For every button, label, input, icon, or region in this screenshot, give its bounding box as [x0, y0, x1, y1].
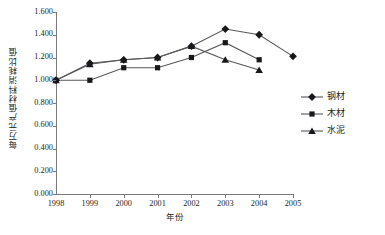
legend-marker-square-icon: [300, 108, 324, 120]
y-axis-tick-mark: [53, 12, 56, 13]
data-point-木材-2003: [223, 40, 228, 45]
legend-label: 水泥: [327, 126, 345, 135]
data-point-钢材-2004: [255, 31, 263, 39]
x-axis-tick-mark: [259, 195, 260, 198]
legend-marker-triangle-icon: [300, 125, 324, 137]
legend-item-木材[interactable]: 木材: [300, 105, 382, 122]
series-line-木材: [56, 43, 259, 81]
y-axis-tick-mark: [53, 149, 56, 150]
data-point-木材-2001: [155, 65, 160, 70]
x-axis-tick-mark: [225, 195, 226, 198]
legend-label: 钢材: [327, 92, 345, 101]
y-axis-tick-mark: [53, 194, 56, 195]
legend-marker-diamond-icon: [300, 91, 324, 103]
data-point-木材-1999: [87, 78, 92, 83]
data-point-钢材-2003: [221, 25, 229, 33]
x-axis-tick-mark: [293, 195, 294, 198]
y-axis-tick-mark: [53, 126, 56, 127]
x-axis-tick-mark: [124, 195, 125, 198]
legend-item-钢材[interactable]: 钢材: [300, 88, 382, 105]
data-point-钢材-2005: [289, 52, 297, 60]
x-axis-title: 年份: [56, 213, 294, 222]
data-point-木材-2004: [257, 57, 262, 62]
y-axis-tick-mark: [53, 103, 56, 104]
data-point-水泥-2003: [222, 56, 230, 63]
legend-item-水泥[interactable]: 水泥: [300, 122, 382, 139]
line-chart: 每万元产值材料消耗比值 0.0000.2000.4000.6000.8001.0…: [0, 0, 385, 235]
y-axis-tick-mark: [53, 171, 56, 172]
y-axis-tick-mark: [53, 58, 56, 59]
y-axis-tick-mark: [53, 35, 56, 36]
x-axis-tick-label: 2005: [273, 200, 313, 208]
y-axis-tick-mark: [53, 80, 56, 81]
data-point-木材-2002: [189, 55, 194, 60]
x-axis-tick-mark: [90, 195, 91, 198]
x-axis-tick-mark: [158, 195, 159, 198]
data-point-木材-2000: [121, 65, 126, 70]
x-axis-tick-mark: [191, 195, 192, 198]
legend: 钢材木材水泥: [300, 88, 382, 139]
legend-label: 木材: [327, 109, 345, 118]
